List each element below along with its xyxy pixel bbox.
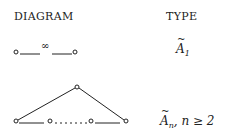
node — [14, 50, 18, 54]
node — [14, 119, 18, 123]
type-label-a1-tilde: ~A1 — [176, 42, 190, 58]
node — [124, 119, 128, 123]
node — [73, 50, 77, 54]
node — [89, 119, 93, 123]
node-top — [75, 85, 79, 89]
node — [48, 119, 52, 123]
edge-label-infinity: ∞ — [41, 40, 49, 51]
diagram-an-tilde — [14, 85, 128, 123]
type-label-an-tilde: ~An, n ≥ 2 — [160, 114, 215, 130]
diagram-a1-tilde: ∞ — [14, 40, 77, 54]
